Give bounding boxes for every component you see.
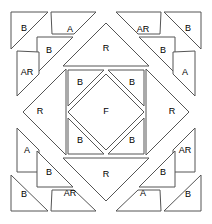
piece-label-tri-left-r: R [37, 106, 44, 116]
piece-label-strip-left-top-ar: AR [21, 67, 34, 77]
piece-label-strip-top-right-ar: AR [137, 24, 150, 34]
piece-label-strip-right-bottom-ar: AR [179, 145, 192, 155]
piece-label-corner-tr-b: B [185, 23, 191, 33]
piece-label-inner-bl-b: B [46, 167, 52, 177]
quilt-block-diagram: BABARRARBBARRBBFBBABBARRARBAB [0, 0, 212, 224]
piece-label-strip-bottom-left-ar: AR [64, 188, 77, 198]
piece-label-strip-left-bottom-a: A [24, 145, 30, 155]
piece-label-corner-br-b: B [185, 189, 191, 199]
piece-label-inner-br-b: B [160, 167, 166, 177]
piece-label-corner-tl-b: B [21, 23, 27, 33]
piece-label-tri-right-r: R [169, 106, 176, 116]
piece-label-tri-top-r: R [103, 43, 110, 53]
piece-label-corner-bl-b: B [21, 189, 27, 199]
piece-label-strip-right-top-a: A [182, 67, 188, 77]
piece-label-inner-tr-b: B [160, 45, 166, 55]
piece-label-center-f: F [103, 106, 109, 116]
piece-label-strip-bottom-right-a: A [140, 188, 146, 198]
piece-label-center-tl-b: B [77, 77, 83, 87]
piece-label-tri-bottom-r: R [103, 169, 110, 179]
piece-label-center-tr-b: B [129, 77, 135, 87]
piece-label-center-br-b: B [129, 135, 135, 145]
piece-label-inner-tl-b: B [46, 45, 52, 55]
piece-label-strip-top-left-a: A [67, 24, 73, 34]
piece-label-center-bl-b: B [77, 135, 83, 145]
